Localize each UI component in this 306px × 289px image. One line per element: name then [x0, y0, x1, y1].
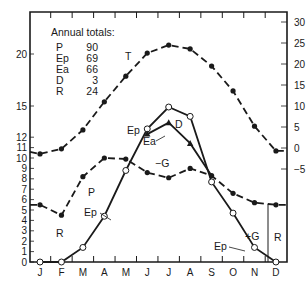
filled-circle-marker	[188, 46, 193, 51]
series-annotation: Ep	[84, 206, 97, 218]
filled-circle-marker	[80, 127, 85, 132]
left-tick-label: 20	[16, 49, 28, 60]
open-circle-marker	[273, 259, 279, 265]
left-tick-label: 3	[21, 225, 27, 236]
series-annotation: −G	[155, 157, 169, 169]
ea-pointer-arrow	[156, 136, 165, 141]
right-tick-label: 5	[294, 122, 300, 133]
filled-circle-marker	[102, 155, 107, 160]
filled-circle-marker	[252, 124, 257, 129]
x-tick-label: M	[79, 267, 87, 278]
open-circle-marker	[187, 113, 193, 119]
filled-circle-marker	[230, 191, 235, 196]
series-annotation: Ep	[127, 124, 140, 136]
left-tick-label: 8	[21, 173, 27, 184]
filled-circle-marker	[123, 156, 128, 161]
filled-triangle-marker	[166, 119, 172, 125]
annual-total-row: R24	[51, 86, 115, 97]
filled-circle-marker	[166, 175, 171, 180]
filled-circle-marker	[230, 88, 235, 93]
filled-circle-marker	[37, 202, 42, 207]
series-annotation: T	[125, 50, 132, 62]
open-circle-marker	[58, 259, 64, 265]
ep-pointer-arrow	[229, 247, 245, 251]
open-circle-marker	[252, 244, 258, 250]
x-tick-label: D	[272, 267, 279, 278]
annual-totals-box: Annual totals: P90 Ep69 Ea66 D3 R24	[51, 27, 115, 97]
x-tick-label: J	[145, 267, 150, 278]
right-tick-label: 15	[294, 80, 306, 91]
series-annotation: Ea	[143, 135, 156, 147]
left-tick-label: 6	[21, 194, 27, 205]
right-tick-label: 10	[294, 101, 306, 112]
x-tick-label: M	[122, 267, 130, 278]
x-tick-label: J	[38, 267, 43, 278]
right-tick-label: 20	[294, 59, 306, 70]
series-annotation: D	[175, 118, 183, 130]
right-tick-label: 30	[294, 17, 306, 28]
x-tick-label: J	[166, 267, 171, 278]
filled-circle-marker	[80, 174, 85, 179]
open-circle-marker	[209, 179, 215, 185]
x-tick-label: N	[251, 267, 258, 278]
filled-circle-marker	[102, 99, 107, 104]
filled-circle-marker	[209, 64, 214, 69]
right-tick-label: 0	[294, 143, 300, 154]
left-tick-label: 4	[21, 215, 27, 226]
filled-circle-marker	[252, 200, 257, 205]
left-tick-label: 7	[21, 184, 27, 195]
open-circle-marker	[123, 167, 129, 173]
filled-circle-marker	[123, 74, 128, 79]
filled-circle-marker	[273, 148, 278, 153]
water-balance-chart: JFMAMJJASOND01234567891011121520−5051015…	[0, 0, 306, 289]
x-tick-label: S	[208, 267, 215, 278]
open-circle-marker	[80, 244, 86, 250]
filled-circle-marker	[37, 151, 42, 156]
left-tick-label: 12	[16, 132, 28, 143]
filled-circle-marker	[166, 43, 171, 48]
left-tick-label: 9	[21, 163, 27, 174]
series-annotation: R	[274, 231, 282, 243]
series-annotation: +G	[245, 230, 259, 242]
left-tick-label: 10	[16, 153, 28, 164]
x-tick-label: O	[229, 267, 237, 278]
series-annotation: R	[56, 227, 64, 239]
left-tick-label: 15	[16, 101, 28, 112]
filled-circle-marker	[273, 202, 278, 207]
series-annotation: Ep	[214, 240, 227, 252]
filled-circle-marker	[188, 166, 193, 171]
filled-circle-marker	[59, 146, 64, 151]
right-tick-label: 25	[294, 38, 306, 49]
total-key: R	[56, 86, 78, 97]
filled-circle-marker	[59, 213, 64, 218]
series-annotation: P	[88, 186, 95, 198]
right-tick-label: −5	[294, 164, 306, 175]
left-tick-label: 0	[21, 257, 27, 268]
series-line-Ep	[40, 107, 276, 262]
x-tick-label: F	[58, 267, 64, 278]
x-tick-label: A	[187, 267, 194, 278]
open-circle-marker	[37, 259, 43, 265]
open-circle-marker	[230, 210, 236, 216]
filled-circle-marker	[145, 50, 150, 55]
open-circle-marker	[166, 104, 172, 110]
filled-circle-marker	[145, 170, 150, 175]
annual-totals-title: Annual totals:	[51, 27, 115, 38]
left-tick-label: 2	[21, 236, 27, 247]
left-tick-label: 1	[21, 246, 27, 257]
total-value: 24	[78, 86, 98, 97]
left-tick-label: 5	[21, 205, 27, 216]
left-tick-label: 11	[17, 142, 28, 153]
x-tick-label: A	[101, 267, 108, 278]
